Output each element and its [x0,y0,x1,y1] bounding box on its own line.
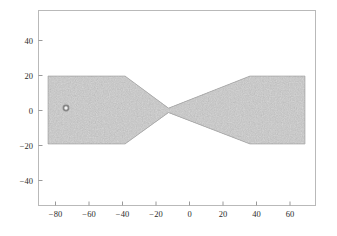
x-tick-label: −40 [116,209,129,219]
x-tick-label: 60 [286,209,295,219]
plot-svg: −80 −60 −40 −20 0 20 40 60 40 20 0 −20 −… [0,0,337,236]
x-tick-label: 0 [187,209,191,219]
y-tick-label: 40 [25,36,34,46]
y-tick-label: 0 [29,106,33,116]
x-tick-label: −20 [149,209,162,219]
x-tick-label: 20 [219,209,228,219]
y-tick-label: −40 [20,176,33,186]
y-tick-label: −20 [20,141,33,151]
x-tick-label: −80 [49,209,62,219]
y-tick-label: 20 [25,71,34,81]
figure-canvas: −80 −60 −40 −20 0 20 40 60 40 20 0 −20 −… [0,0,337,236]
bright-spot-marker [63,105,70,112]
x-tick-label: −60 [82,209,95,219]
x-tick-label: 40 [252,209,261,219]
